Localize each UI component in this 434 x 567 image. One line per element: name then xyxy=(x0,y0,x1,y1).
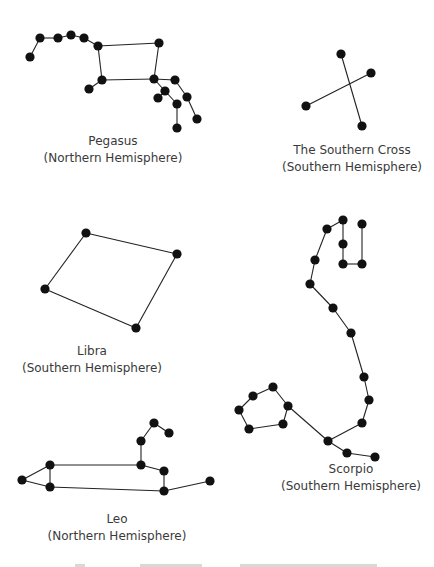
constellation-name: Libra xyxy=(22,343,162,360)
star-dot xyxy=(192,114,201,123)
star-dot xyxy=(268,382,277,391)
connector-line xyxy=(45,233,86,289)
star-dot xyxy=(81,228,90,237)
star-dot xyxy=(45,460,54,469)
connector-line xyxy=(136,254,177,328)
star-dot xyxy=(170,75,179,84)
star-dot xyxy=(357,219,366,228)
star-dot xyxy=(234,405,243,414)
star-dot xyxy=(364,395,373,404)
connector-line xyxy=(328,423,362,441)
star-dot xyxy=(342,448,351,457)
star-dot xyxy=(159,486,168,495)
connector-line xyxy=(351,333,364,377)
star-dot xyxy=(248,391,257,400)
star-dot xyxy=(357,418,366,427)
connector-line xyxy=(98,46,102,80)
star-dot xyxy=(366,68,375,77)
star-dot xyxy=(323,436,332,445)
connector-line xyxy=(310,284,333,308)
star-dot xyxy=(136,436,145,445)
star-dot xyxy=(336,49,345,58)
label-libra: Libra (Southern Hemisphere) xyxy=(22,343,162,377)
star-dot xyxy=(172,99,181,108)
constellation-name: Scorpio xyxy=(281,461,421,478)
star-dot xyxy=(357,259,366,268)
star-dot xyxy=(154,38,163,47)
hemisphere-note: (Southern Hemisphere) xyxy=(22,360,162,377)
star-dot xyxy=(160,86,169,95)
star-dot xyxy=(182,92,191,101)
connector-line xyxy=(154,43,159,79)
star-dot xyxy=(278,419,287,428)
star-dot xyxy=(244,424,253,433)
star-dot xyxy=(97,75,106,84)
star-dot xyxy=(136,460,145,469)
connector-line xyxy=(306,73,371,106)
star-dot xyxy=(79,33,88,42)
star-dot xyxy=(35,33,44,42)
star-dot xyxy=(93,41,102,50)
constellation-scorpio xyxy=(234,215,379,461)
star-dot xyxy=(172,249,181,258)
connector-line xyxy=(98,43,159,46)
hemisphere-note: (Southern Hemisphere) xyxy=(282,159,422,176)
star-dot xyxy=(172,123,181,132)
star-dot xyxy=(164,428,173,437)
star-dot xyxy=(322,224,331,233)
label-leo: Leo (Northern Hemisphere) xyxy=(48,511,187,545)
star-dot xyxy=(328,303,337,312)
connector-line xyxy=(86,233,177,254)
connector-line xyxy=(333,308,351,333)
connector-line xyxy=(102,79,154,80)
star-dot xyxy=(205,476,214,485)
star-dot xyxy=(40,284,49,293)
star-dot xyxy=(283,401,292,410)
constellation-the-southern-cross xyxy=(301,49,375,130)
star-dot xyxy=(359,372,368,381)
star-dot xyxy=(149,74,158,83)
star-dot xyxy=(131,323,140,332)
connector-line xyxy=(288,406,328,441)
star-dot xyxy=(357,121,366,130)
star-dot xyxy=(346,328,355,337)
connector-line xyxy=(249,424,283,429)
constellation-leo xyxy=(17,418,214,495)
star-dot xyxy=(310,255,319,264)
star-dot xyxy=(149,418,158,427)
connector-line xyxy=(45,289,136,328)
star-dot xyxy=(25,52,34,61)
star-dot xyxy=(17,475,26,484)
hemisphere-note: (Northern Hemisphere) xyxy=(44,150,183,167)
star-dot xyxy=(338,239,347,248)
label-pegasus: Pegasus (Northern Hemisphere) xyxy=(44,133,183,167)
connector-line xyxy=(341,54,362,126)
hemisphere-note: (Northern Hemisphere) xyxy=(48,528,187,545)
star-dot xyxy=(45,482,54,491)
star-dot xyxy=(338,215,347,224)
star-dot xyxy=(305,279,314,288)
constellation-name: Leo xyxy=(48,511,187,528)
connector-line xyxy=(50,487,164,491)
constellation-name: The Southern Cross xyxy=(282,142,422,159)
constellation-libra xyxy=(40,228,181,332)
connector-line xyxy=(22,465,50,480)
star-dot xyxy=(153,93,162,102)
constellation-pegasus xyxy=(25,30,201,132)
constellation-name: Pegasus xyxy=(44,133,183,150)
cut-off-caption xyxy=(0,561,434,567)
star-dot xyxy=(338,259,347,268)
connector-line xyxy=(164,481,210,491)
star-dot xyxy=(301,101,310,110)
star-dot xyxy=(53,33,62,42)
label-scorpio: Scorpio (Southern Hemisphere) xyxy=(281,461,421,495)
hemisphere-note: (Southern Hemisphere) xyxy=(281,478,421,495)
connector-line xyxy=(315,229,327,260)
star-dot xyxy=(159,466,168,475)
star-dot xyxy=(84,84,93,93)
star-dot xyxy=(66,30,75,39)
label-southern-cross: The Southern Cross (Southern Hemisphere) xyxy=(282,142,422,176)
